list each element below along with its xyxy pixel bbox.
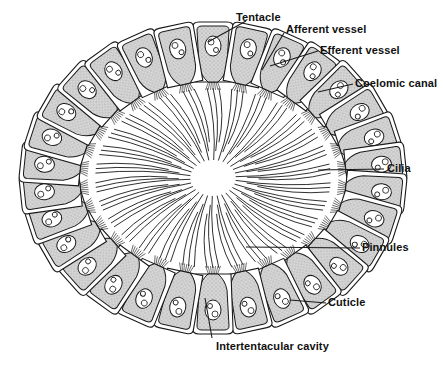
label-afferent-vessel: Afferent vessel — [286, 23, 366, 35]
label-tentacle: Tentacle — [236, 11, 281, 23]
label-cuticle: Cuticle — [328, 296, 365, 308]
label-pinnules: Pinnules — [362, 241, 409, 253]
label-efferent-vessel: Efferent vessel — [320, 44, 400, 56]
label-coelomic-canal: Coelomic canal — [355, 77, 437, 89]
tentacle-cells — [19, 21, 408, 334]
diagram-canvas: Tentacle Afferent vessel Efferent vessel… — [0, 0, 443, 365]
pinnule-rays — [95, 88, 330, 268]
label-intertentacular-cavity: Intertentacular cavity — [216, 340, 329, 352]
label-cilia: Cilia — [387, 162, 411, 174]
